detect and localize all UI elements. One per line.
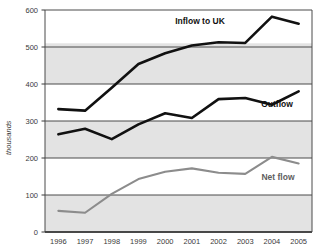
x-axis-labels: 1996199719981999200020012002200320042005 (50, 237, 307, 246)
x-tick-label: 2002 (210, 237, 227, 246)
x-tick-label: 2000 (157, 237, 174, 246)
x-tick-label: 2004 (264, 237, 281, 246)
x-tick-label: 1997 (77, 237, 94, 246)
chart-container: 0100200300400500600 19961997199819992000… (0, 0, 320, 251)
x-tick-label: 1998 (103, 237, 120, 246)
x-tick-label: 2001 (184, 237, 201, 246)
y-tick-label: 600 (25, 6, 38, 15)
y-axis-labels: 0100200300400500600 (25, 6, 45, 237)
y-tick-label: 300 (25, 117, 38, 126)
y-tick-label: 100 (25, 191, 38, 200)
x-tick-label: 1996 (50, 237, 67, 246)
series-annotation-outflow: Outflow (261, 99, 293, 109)
y-axis-title: thousands (4, 120, 13, 155)
y-tick-label: 0 (34, 228, 38, 237)
y-tick-label: 400 (25, 80, 38, 89)
y-tick-label: 500 (25, 43, 38, 52)
x-tick-label: 2003 (237, 237, 254, 246)
plot-band (45, 10, 312, 43)
line-chart: 0100200300400500600 19961997199819992000… (0, 0, 320, 251)
x-tick-label: 1999 (130, 237, 147, 246)
x-tick-label: 2005 (290, 237, 307, 246)
y-tick-label: 200 (25, 154, 38, 163)
series-annotation-net-flow: Net flow (261, 172, 294, 182)
series-annotation-inflow-to-uk: Inflow to UK (175, 16, 225, 26)
